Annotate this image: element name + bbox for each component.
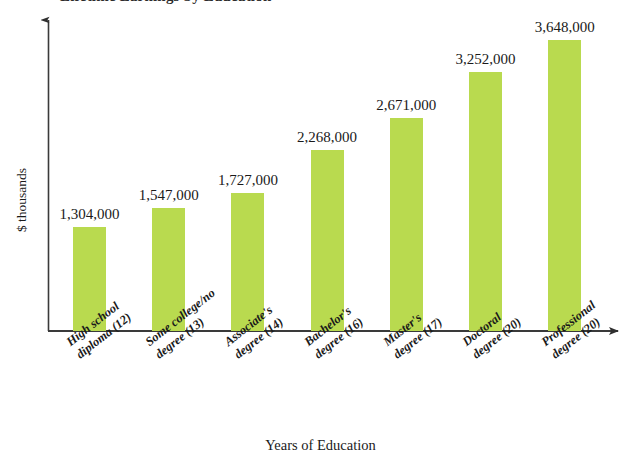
bar-value-label: 1,304,000 (60, 206, 120, 223)
bar-group: 2,268,000 (311, 150, 344, 331)
bar-value-label: 3,648,000 (535, 19, 595, 36)
bar[interactable] (469, 72, 502, 331)
bar[interactable] (311, 150, 344, 331)
plot-area: 1,304,0001,547,0001,727,0002,268,0002,67… (48, 12, 628, 331)
bar[interactable] (390, 118, 423, 331)
chart-title: Lifetime Earnings by Education (60, 0, 271, 5)
bar[interactable] (548, 40, 581, 331)
bar-group: 3,252,000 (469, 72, 502, 331)
y-axis-title: $ thousands (14, 140, 30, 260)
bar-value-label: 1,727,000 (218, 172, 278, 189)
bar-value-label: 3,252,000 (456, 51, 516, 68)
bar-group: 2,671,000 (390, 118, 423, 331)
bar-group: 3,648,000 (548, 40, 581, 331)
x-axis-title: Years of Education (0, 437, 641, 454)
bar-value-label: 2,268,000 (297, 129, 357, 146)
bar-chart: Lifetime Earnings by Education $ thousan… (0, 0, 641, 465)
bar-value-label: 2,671,000 (376, 97, 436, 114)
bar-value-label: 1,547,000 (139, 187, 199, 204)
